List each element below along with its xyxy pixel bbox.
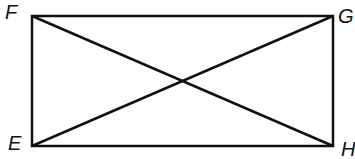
vertex-label-f: F <box>5 2 17 22</box>
vertex-label-g: G <box>338 6 354 26</box>
vertex-label-h: H <box>341 139 355 159</box>
vertex-label-e: E <box>8 133 21 153</box>
